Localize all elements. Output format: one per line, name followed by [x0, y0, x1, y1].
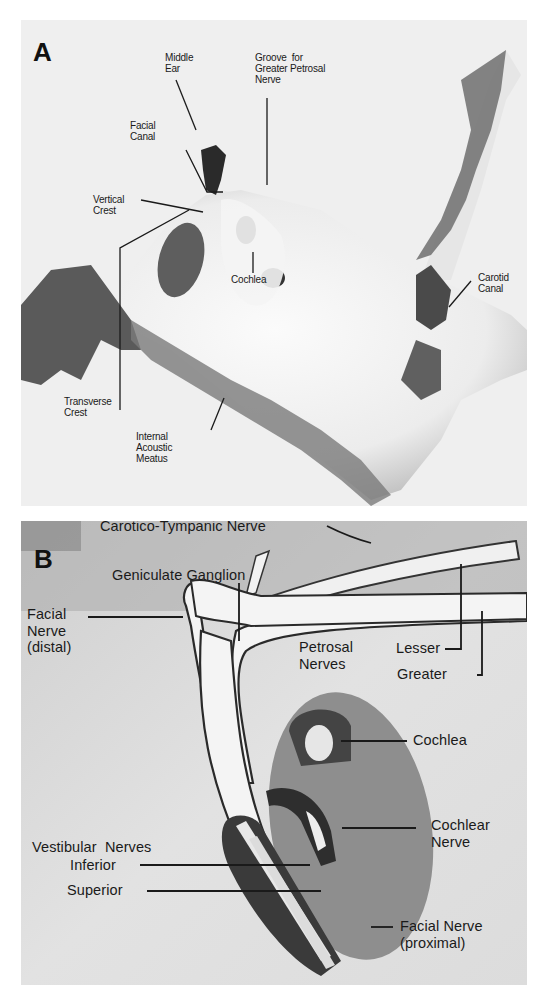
label-internal-acoustic-meatus: Internal Acoustic Meatus [136, 431, 172, 465]
label-facial-nerve-distal: Facial Nerve (distal) [27, 606, 71, 656]
temporal-bone-photo [21, 20, 527, 506]
label-vertical-crest: Vertical Crest [93, 194, 124, 216]
label-vestibular-nerves: Vestibular Nerves [32, 839, 151, 856]
label-cochlea: Cochlea [231, 274, 266, 285]
label-greater-petrosal: Greater [397, 666, 447, 683]
label-lesser-petrosal: Lesser [396, 640, 440, 657]
label-carotid-canal: Carotid Canal [478, 272, 509, 294]
label-transverse-crest: Transverse Crest [64, 396, 112, 418]
label-cochlea-b: Cochlea [413, 732, 467, 749]
label-cochlear-nerve: Cochlear Nerve [431, 817, 490, 850]
panel-letter-a: A [33, 39, 52, 65]
label-vestibular-inferior: Inferior [70, 857, 116, 874]
panel-b-nerve-illustration: B Carotico-Tympanic Nerve Geniculate Gan… [21, 521, 527, 985]
label-petrosal-nerves: Petrosal Nerves [299, 639, 353, 672]
label-facial-nerve-proximal: Facial Nerve (proximal) [400, 918, 483, 951]
nerve-illustration [21, 521, 527, 985]
label-carotico-tympanic-nerve: Carotico-Tympanic Nerve [100, 521, 266, 535]
label-groove-greater-petrosal-nerve: Groove for Greater Petrosal Nerve [255, 52, 325, 86]
label-vestibular-superior: Superior [67, 882, 123, 899]
label-facial-canal: Facial Canal [130, 120, 155, 142]
label-geniculate-ganglion: Geniculate Ganglion [112, 567, 245, 584]
panel-a-bone-photo: A Middle Ear Groove for Greater Petrosal… [21, 20, 527, 506]
label-middle-ear: Middle Ear [165, 52, 193, 74]
panel-letter-b: B [34, 546, 53, 572]
